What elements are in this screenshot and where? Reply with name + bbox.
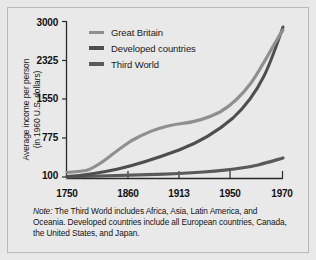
legend-label-developed-countries: Developed countries	[111, 43, 196, 54]
legend-swatch-great-britain	[89, 31, 104, 34]
legend-item-third-world[interactable]: Third World	[89, 58, 159, 70]
legend-label-third-world: Third World	[111, 59, 159, 70]
legend-swatch-third-world	[89, 62, 104, 66]
chart-figure: Average income per person (in 1960 U.S. …	[0, 0, 316, 260]
legend-item-developed-countries[interactable]: Developed countries	[89, 42, 196, 54]
legend-swatch-developed-countries	[89, 46, 104, 50]
note-text: The Third World includes Africa, Asia, L…	[33, 206, 287, 238]
legend-label-great-britain: Great Britain	[111, 27, 163, 38]
note-label: Note:	[33, 206, 52, 216]
legend-item-great-britain[interactable]: Great Britain	[89, 26, 163, 38]
chart-note: Note: The Third World includes Africa, A…	[33, 206, 291, 239]
